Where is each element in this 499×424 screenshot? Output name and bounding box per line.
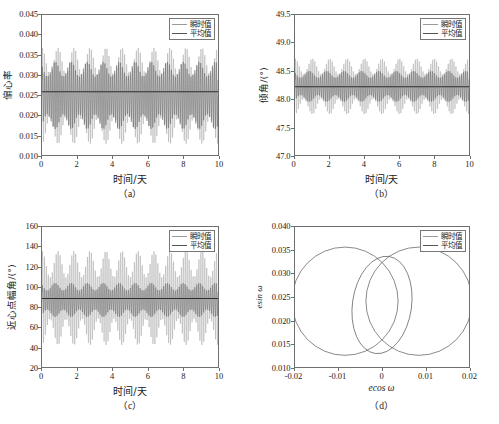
y-tick-mark xyxy=(38,95,41,96)
x-tick-mark xyxy=(183,368,184,371)
x-tick-mark xyxy=(183,156,184,159)
y-tick-label: 20 xyxy=(30,363,38,373)
y-tick-label: 48.5 xyxy=(276,66,290,76)
y-tick-label: 49.0 xyxy=(276,37,290,47)
y-tick-label: 0.035 xyxy=(19,50,38,60)
y-tick-mark xyxy=(38,327,41,328)
y-tick-label: 120 xyxy=(26,262,38,272)
x-tick-mark xyxy=(382,368,383,371)
eccentricity-loop xyxy=(365,247,468,355)
y-tick-label: 48.0 xyxy=(276,94,290,104)
x-tick-mark xyxy=(148,368,149,371)
instant-trace-inner xyxy=(42,62,218,129)
y-tick-mark xyxy=(38,75,41,76)
legend-b: 瞬时值 平均值 xyxy=(420,18,466,40)
y-tick-label: 0.030 xyxy=(19,70,38,80)
x-tick-label: 0.02 xyxy=(462,371,477,381)
legend-label-mean: 平均值 xyxy=(190,242,211,250)
series-loops-d xyxy=(295,247,469,357)
x-tick-mark xyxy=(77,368,78,371)
legend-entry-mean: 平均值 xyxy=(172,30,211,38)
x-tick-mark xyxy=(112,368,113,371)
legend-label-mean: 平均值 xyxy=(441,242,462,250)
y-tick-mark xyxy=(291,297,294,298)
x-tick-mark xyxy=(470,156,471,159)
x-tick-mark xyxy=(426,368,427,371)
y-axis-label-c: 近心点幅角/(°) xyxy=(4,264,18,329)
legend-entry-instant: 瞬时值 xyxy=(423,21,462,29)
y-tick-mark xyxy=(38,348,41,349)
y-tick-mark xyxy=(38,226,41,227)
x-tick-label: 8 xyxy=(181,159,185,169)
y-tick-mark xyxy=(291,99,294,100)
y-tick-label: 47.5 xyxy=(276,123,290,133)
y-tick-label: 0.020 xyxy=(272,316,291,326)
x-tick-mark xyxy=(470,368,471,371)
x-tick-label: 0 xyxy=(39,371,43,381)
panel-a: 瞬时值 平均值 0.0100.0150.0200.0250.0300.0350.… xyxy=(0,0,250,212)
y-tick-label: 40 xyxy=(30,343,38,353)
x-tick-label: 0 xyxy=(379,371,383,381)
legend-swatch-instant xyxy=(172,236,187,237)
x-tick-label: 6 xyxy=(397,159,401,169)
x-tick-label: -0.02 xyxy=(285,371,303,381)
y-tick-label: 0.040 xyxy=(272,221,291,231)
y-tick-label: 49.5 xyxy=(276,9,290,19)
x-tick-mark xyxy=(148,156,149,159)
y-tick-label: 140 xyxy=(26,241,38,251)
y-tick-label: 0.015 xyxy=(272,339,291,349)
x-tick-label: 4 xyxy=(362,159,366,169)
y-tick-mark xyxy=(291,273,294,274)
legend-swatch-mean xyxy=(172,33,187,34)
x-axis-label-b: 时间/天 xyxy=(365,171,398,186)
y-tick-mark xyxy=(38,55,41,56)
x-tick-label: -0.01 xyxy=(329,371,347,381)
plot-area-c: 瞬时值 平均值 xyxy=(41,226,219,368)
legend-label-mean: 平均值 xyxy=(190,30,211,38)
y-tick-mark xyxy=(291,250,294,251)
legend-swatch-instant xyxy=(172,24,187,25)
y-tick-label: 0.025 xyxy=(19,90,38,100)
x-tick-label: 2 xyxy=(74,159,78,169)
y-axis-label-d: esin ω xyxy=(254,285,264,308)
x-tick-label: 2 xyxy=(74,371,78,381)
y-tick-mark xyxy=(38,14,41,15)
y-tick-mark xyxy=(291,42,294,43)
legend-entry-instant: 瞬时值 xyxy=(172,21,211,29)
y-tick-label: 0.015 xyxy=(19,131,38,141)
y-tick-mark xyxy=(38,246,41,247)
legend-label-mean: 平均值 xyxy=(441,30,462,38)
x-axis-label-a: 时间/天 xyxy=(113,171,146,186)
x-tick-label: 4 xyxy=(110,371,114,381)
legend-entry-instant: 瞬时值 xyxy=(423,233,462,241)
eccentricity-loop xyxy=(345,252,417,357)
y-tick-label: 0.045 xyxy=(19,9,38,19)
legend-swatch-mean xyxy=(423,33,438,34)
y-tick-mark xyxy=(38,34,41,35)
y-tick-mark xyxy=(291,128,294,129)
x-tick-label: 8 xyxy=(432,159,436,169)
y-tick-label: 0.010 xyxy=(19,151,38,161)
legend-label-instant: 瞬时值 xyxy=(441,21,462,29)
x-tick-mark xyxy=(329,156,330,159)
plot-area-a: 瞬时值 平均值 xyxy=(41,14,219,156)
x-tick-mark xyxy=(41,368,42,371)
x-tick-label: 0 xyxy=(291,159,295,169)
panel-d: 瞬时值 平均值 0.0100.0150.0200.0250.0300.0350.… xyxy=(250,212,499,424)
x-tick-mark xyxy=(364,156,365,159)
legend-entry-mean: 平均值 xyxy=(172,242,211,250)
y-tick-mark xyxy=(38,136,41,137)
y-axis-label-a: 偏心率 xyxy=(0,70,14,100)
x-axis-label-c: 时间/天 xyxy=(113,383,146,398)
legend-c: 瞬时值 平均值 xyxy=(169,230,215,252)
y-tick-mark xyxy=(291,321,294,322)
x-tick-mark xyxy=(219,156,220,159)
y-tick-mark xyxy=(291,71,294,72)
x-tick-mark xyxy=(399,156,400,159)
panel-caption-b: （b） xyxy=(369,186,394,200)
x-tick-mark xyxy=(41,156,42,159)
x-tick-mark xyxy=(112,156,113,159)
legend-label-instant: 瞬时值 xyxy=(441,233,462,241)
y-axis-label-b: 倾角/(°) xyxy=(256,67,270,102)
y-tick-mark xyxy=(38,115,41,116)
